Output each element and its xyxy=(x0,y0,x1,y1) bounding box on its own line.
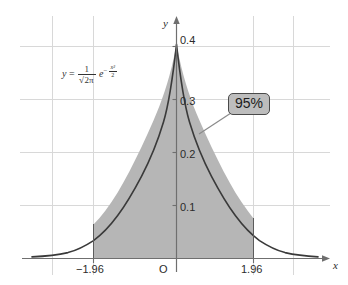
exponent-numerator: x² xyxy=(109,64,117,70)
formula-fraction: 1 √2π xyxy=(78,65,96,86)
exponent-fraction: x²2 xyxy=(109,64,117,79)
formula-denominator-body: 2π xyxy=(84,74,95,85)
formula-equals: = xyxy=(69,68,75,79)
x-tick-label-neg196: −1.96 xyxy=(76,264,104,275)
formula-exponent: −x²2 xyxy=(104,67,118,75)
y-tick-label-0.2: 0.2 xyxy=(180,149,195,160)
exponent-minus: − xyxy=(104,67,108,75)
origin-label: O xyxy=(159,264,168,275)
x-axis-ticks xyxy=(94,259,254,264)
x-tick-label-pos196: 1.96 xyxy=(241,264,262,275)
callout-leader-line xyxy=(199,113,231,134)
normal-distribution-figure: y x 0.4 0.3 0.2 0.1 −1.96 O 1.96 y = 1 √… xyxy=(0,0,348,285)
x-axis-arrow xyxy=(322,255,330,261)
x-axis-label: x xyxy=(333,260,338,271)
plot-canvas xyxy=(0,0,348,285)
y-tick-label-0.3: 0.3 xyxy=(180,96,195,107)
y-axis-label: y xyxy=(163,18,168,29)
radical-sign: √ xyxy=(79,75,83,85)
formula-denominator: √2π xyxy=(78,76,96,85)
y-axis-arrow xyxy=(173,16,179,24)
formula-y: y xyxy=(62,68,66,79)
formula-numerator: 1 xyxy=(78,65,96,74)
y-tick-label-0.1: 0.1 xyxy=(180,202,195,213)
percent-callout-badge: 95% xyxy=(228,93,270,115)
y-tick-label-0.4: 0.4 xyxy=(180,35,195,46)
density-formula-annotation: y = 1 √2π e−x²2 xyxy=(62,64,118,85)
percent-callout-label: 95% xyxy=(235,95,263,111)
exponent-denominator: 2 xyxy=(109,72,117,78)
